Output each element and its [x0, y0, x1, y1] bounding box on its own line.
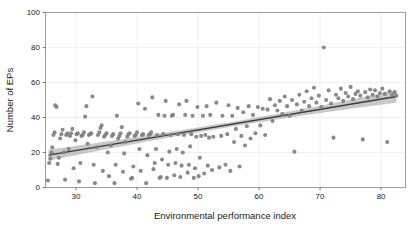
svg-text:80: 80	[31, 43, 40, 52]
svg-text:20: 20	[31, 148, 40, 157]
svg-text:40: 40	[133, 192, 142, 201]
svg-text:60: 60	[255, 192, 264, 201]
scatter-plot: 304050607080 020406080100 Environmental …	[0, 0, 420, 227]
svg-text:60: 60	[31, 78, 40, 87]
svg-text:70: 70	[316, 192, 325, 201]
x-axis-title: Environmental performance index	[154, 210, 296, 221]
svg-text:50: 50	[194, 192, 203, 201]
y-axis-title: Number of EPs	[4, 68, 15, 133]
chart-figure: 304050607080 020406080100 Environmental …	[0, 0, 420, 227]
svg-text:30: 30	[72, 192, 81, 201]
svg-text:40: 40	[31, 113, 40, 122]
svg-text:0: 0	[36, 183, 41, 192]
svg-text:100: 100	[27, 8, 41, 17]
svg-text:80: 80	[377, 192, 386, 201]
